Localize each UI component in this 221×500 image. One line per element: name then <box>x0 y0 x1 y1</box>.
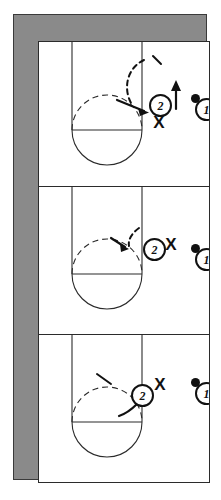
panel-three: 2 X 1 <box>39 334 209 482</box>
cut-arrow-panel-one <box>117 100 149 116</box>
token-offense-1-group-panel-one[interactable]: 1 <box>191 94 209 118</box>
token-offense-2-panel-three[interactable]: 2 <box>131 384 154 407</box>
up-arrow-panel-one <box>171 80 181 109</box>
token-defender-x-panel-two[interactable]: X <box>163 236 179 252</box>
cut-tail-tick-panel-one <box>153 56 161 64</box>
token-offense-1-panel-three[interactable]: 1 <box>195 382 209 405</box>
token-offense-1-panel-one[interactable]: 1 <box>195 98 209 121</box>
token-defender-x-panel-three[interactable]: X <box>152 376 168 392</box>
diagram-inner-court-area: 2 X 1 <box>38 41 210 483</box>
court-markings-panel-three <box>39 334 209 482</box>
token-offense-1-group-panel-two[interactable]: 1 <box>191 244 209 268</box>
court-markings-panel-two <box>39 186 209 334</box>
token-offense-1-group-panel-three[interactable]: 1 <box>191 378 209 402</box>
cut-path-solid-panel-three <box>119 404 137 416</box>
cut-path-dashed-panel-two <box>129 228 139 246</box>
play-diagram-canvas: 2 X 1 <box>0 0 221 500</box>
cut-tail-tick-panel-three <box>97 374 111 384</box>
panel-two: 2 X 1 <box>39 186 209 334</box>
token-defender-x-panel-one[interactable]: X <box>151 114 167 130</box>
panel-one: 2 X 1 <box>39 42 209 186</box>
diagram-outer-frame: 2 X 1 <box>13 14 207 480</box>
token-offense-1-panel-two[interactable]: 1 <box>195 248 209 271</box>
court-markings-panel-one <box>39 42 209 186</box>
